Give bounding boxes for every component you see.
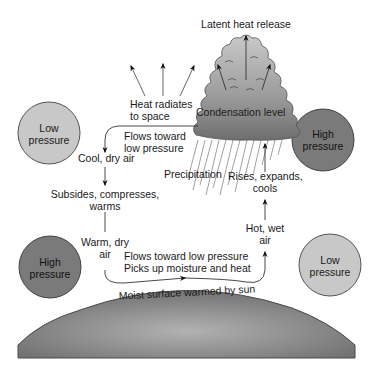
precipitation-label: Precipitation xyxy=(164,168,222,180)
hot-wet-air-label-line1: Hot, wet xyxy=(242,222,288,234)
heat-radiates-arrow-left xyxy=(131,66,145,96)
warm-dry-air-label-line1: Warm, dry xyxy=(80,236,130,248)
low-pressure-label-bottom-right: Low pressure xyxy=(300,254,360,278)
cumulonimbus-cloud xyxy=(193,35,300,140)
subsides-label-line1: Subsides, compresses, xyxy=(48,188,162,200)
cool-dry-air-label: Cool, dry air xyxy=(78,152,135,164)
heat-radiates-label-line1: Heat radiates xyxy=(130,98,192,110)
low-pressure-label-top-left: Low pressure xyxy=(19,122,79,146)
high-pressure-label-bottom-left: High pressure xyxy=(20,256,80,280)
rises-expands-label-line1: Rises, expands, xyxy=(228,170,302,182)
hot-wet-air-label-line2: air xyxy=(242,234,288,246)
condensation-level-label: Condensation level xyxy=(196,106,285,118)
heat-radiates-arrow-right xyxy=(180,66,194,96)
high-pressure-label-top-right: High pressure xyxy=(293,128,353,152)
heat-radiates-label-line2: to space xyxy=(130,110,170,122)
flows-toward-label-line1: Flows toward xyxy=(124,130,186,142)
subsides-label-line2: warms xyxy=(48,200,162,212)
warm-dry-air-label-line2: air xyxy=(80,248,130,260)
surface-flow-label-line1: Flows toward low pressure xyxy=(124,250,248,262)
rises-expands-label-line2: cools xyxy=(228,182,302,194)
latent-heat-release-label: Latent heat release xyxy=(200,18,292,30)
ground-surface xyxy=(18,290,355,358)
surface-flow-label-line2: Picks up moisture and heat xyxy=(124,262,251,274)
